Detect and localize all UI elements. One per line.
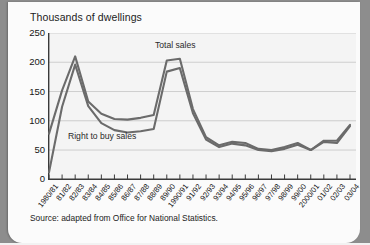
data-series-group	[49, 56, 350, 172]
y-tick-label: 0	[40, 174, 45, 184]
y-tick-label: 50	[34, 145, 45, 155]
series-label-right-to-buy: Right to buy sales	[68, 131, 136, 141]
y-tick-label: 150	[29, 87, 45, 97]
y-tick-label: 250	[29, 28, 45, 38]
line-chart-svg	[48, 33, 356, 180]
y-tick-label: 100	[29, 116, 45, 126]
series-label-total-sales: Total sales	[155, 40, 196, 50]
source-caption: Source: adapted from Office for National…	[30, 213, 218, 223]
x-axis-ticks	[49, 175, 350, 180]
plot-area	[48, 33, 356, 180]
page-title: Thousands of dwellings	[30, 11, 142, 23]
y-axis-labels: 050100150200250	[8, 33, 45, 180]
y-tick-label: 200	[29, 57, 45, 67]
series-line-right-to-buy-sales	[49, 65, 350, 173]
chart-card: Thousands of dwellings 050100150200250 T…	[8, 2, 360, 243]
x-axis-labels: 1980/8181/8282/8383/8484/8585/8686/8787/…	[48, 182, 360, 216]
